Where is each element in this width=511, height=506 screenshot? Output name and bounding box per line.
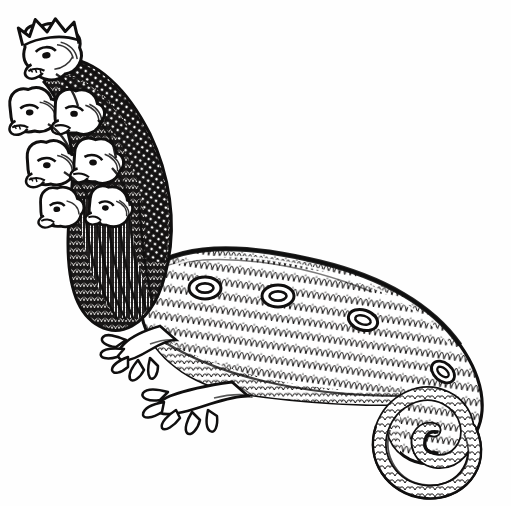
ring-spot [262, 285, 294, 307]
ring-spot [189, 277, 221, 299]
monster-illustration [0, 0, 511, 506]
monster-svg [0, 0, 511, 506]
illustration-page: MONSTER [0, 0, 511, 506]
